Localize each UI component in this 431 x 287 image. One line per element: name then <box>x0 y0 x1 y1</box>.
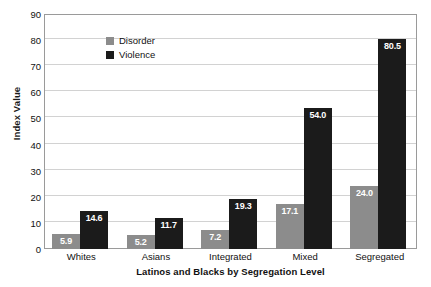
x-tick-label-asians: Asians <box>119 251 194 262</box>
x-axis-ticks: WhitesAsiansIntegratedMixedSegregated <box>44 251 417 267</box>
y-tick-label: 10 <box>4 217 44 228</box>
y-tick-label: 0 <box>4 244 44 255</box>
bar-value-label: 5.9 <box>52 236 80 247</box>
bar-violence-asians[interactable]: 11.7 <box>155 218 183 249</box>
bar-disorder-integrated[interactable]: 7.2 <box>201 230 229 249</box>
bars-layer: 5.914.65.211.77.219.317.154.024.080.5 <box>44 14 417 249</box>
y-tick-label: 90 <box>4 9 44 20</box>
bar-disorder-segregated[interactable]: 24.0 <box>350 186 378 249</box>
y-tick-label: 20 <box>4 191 44 202</box>
bar-value-label: 80.5 <box>378 41 406 52</box>
bar-group: 5.914.6 <box>44 14 119 249</box>
bar-group: 7.219.3 <box>193 14 268 249</box>
bar-value-label: 17.1 <box>276 206 304 217</box>
x-tick-label-whites: Whites <box>44 251 119 262</box>
y-axis-ticks: 9080706050403020100 <box>0 14 44 249</box>
bar-violence-mixed[interactable]: 54.0 <box>304 108 332 249</box>
bar-disorder-mixed[interactable]: 17.1 <box>276 204 304 249</box>
bar-value-label: 5.2 <box>127 237 155 248</box>
y-tick-label: 40 <box>4 139 44 150</box>
bar-disorder-asians[interactable]: 5.2 <box>127 235 155 249</box>
y-tick-label: 60 <box>4 87 44 98</box>
y-tick-label: 30 <box>4 165 44 176</box>
y-tick-label: 70 <box>4 61 44 72</box>
bar-value-label: 14.6 <box>80 213 108 224</box>
bar-violence-whites[interactable]: 14.6 <box>80 211 108 249</box>
bar-chart: Index Value 9080706050403020100 Disorder… <box>0 0 431 287</box>
x-tick-label-mixed: Mixed <box>268 251 343 262</box>
x-tick-label-segregated: Segregated <box>342 251 417 262</box>
y-tick-label: 80 <box>4 35 44 46</box>
bar-disorder-whites[interactable]: 5.9 <box>52 234 80 249</box>
bar-value-label: 54.0 <box>304 110 332 121</box>
bar-value-label: 11.7 <box>155 220 183 231</box>
bar-violence-segregated[interactable]: 80.5 <box>378 39 406 249</box>
bar-group: 17.154.0 <box>268 14 343 249</box>
bar-group: 5.211.7 <box>119 14 194 249</box>
bar-violence-integrated[interactable]: 19.3 <box>229 199 257 249</box>
bar-group: 24.080.5 <box>342 14 417 249</box>
y-tick-label: 50 <box>4 113 44 124</box>
x-axis-title: Latinos and Blacks by Segregation Level <box>44 266 417 277</box>
bar-value-label: 24.0 <box>350 188 378 199</box>
bar-value-label: 19.3 <box>229 201 257 212</box>
bar-value-label: 7.2 <box>201 232 229 243</box>
x-tick-label-integrated: Integrated <box>193 251 268 262</box>
